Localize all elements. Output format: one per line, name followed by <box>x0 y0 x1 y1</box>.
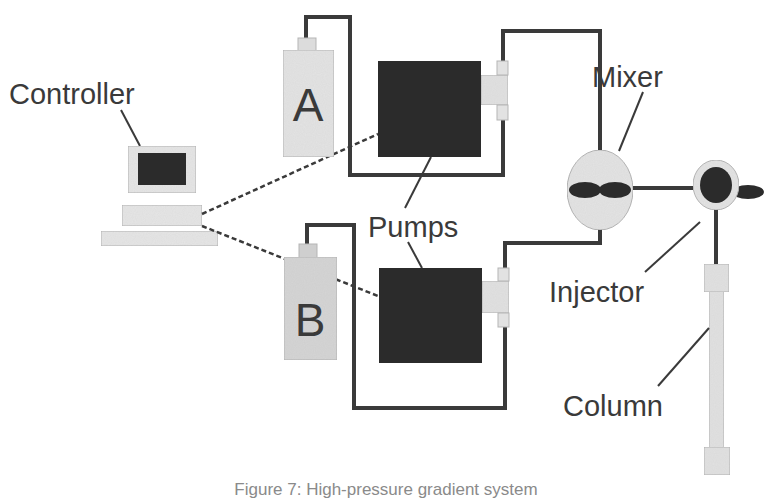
injector-leader-line <box>645 222 700 272</box>
pump-a-head <box>481 75 508 105</box>
reservoir-a-cap <box>298 38 316 51</box>
pumps-label: Pumps <box>368 211 458 243</box>
tube-pump-a-to-mixer <box>503 31 600 150</box>
pump-a-body <box>378 61 481 157</box>
controller-leader-line <box>121 110 140 146</box>
pump-a-check-valve-bottom <box>497 105 508 120</box>
pump-b-head <box>482 281 509 313</box>
injector-valve <box>700 167 732 203</box>
controller-cpu <box>122 205 202 226</box>
column-bottom-fitting <box>704 447 730 475</box>
mixer: Mixer <box>567 61 663 230</box>
controller: Controller <box>9 78 218 246</box>
column-tube <box>709 290 724 448</box>
column-top-fitting <box>704 264 729 292</box>
mixer-label: Mixer <box>592 61 663 93</box>
pumps-leader-line-b <box>408 242 422 268</box>
mixer-blade-left <box>569 182 601 198</box>
column-leader-line <box>658 328 709 386</box>
pump-a <box>378 61 508 157</box>
reservoir-b-label: B <box>295 294 326 346</box>
reservoir-a-label: A <box>293 79 324 131</box>
pump-a-check-valve-top <box>497 61 508 75</box>
pump-b <box>379 268 509 363</box>
pumps-leader-line-a <box>405 157 431 208</box>
injector-label: Injector <box>549 276 644 308</box>
controller-label: Controller <box>9 78 135 110</box>
pump-b-check-valve-bottom <box>498 313 509 327</box>
solvent-reservoir-a: A <box>283 38 334 157</box>
solvent-reservoir-b: B <box>284 244 337 360</box>
mixer-blade-right <box>599 182 631 198</box>
mixer-leader-line <box>619 92 643 151</box>
reservoir-b-cap <box>299 244 317 258</box>
figure-caption: Figure 7: High-pressure gradient system <box>0 480 772 500</box>
pump-b-check-valve-top <box>498 268 509 281</box>
pump-b-body <box>379 268 482 363</box>
controller-screen <box>138 153 186 185</box>
column-label: Column <box>563 390 663 422</box>
controller-keyboard <box>101 231 218 246</box>
tube-pump-b-to-mixer <box>505 229 600 268</box>
